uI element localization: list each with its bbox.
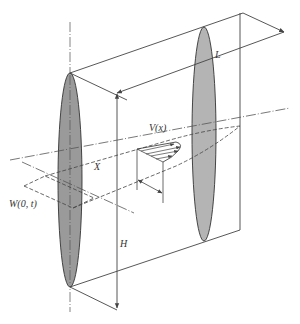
top-edge-back bbox=[70, 13, 243, 73]
label-source: W(0, t) bbox=[9, 199, 37, 209]
x-dimension-line bbox=[138, 180, 162, 193]
label-velocity: V(x) bbox=[149, 123, 166, 133]
top-edge-right bbox=[243, 13, 284, 32]
horizontal-centerline bbox=[10, 108, 290, 160]
velocity-profile bbox=[137, 142, 181, 162]
bottom-edge-front bbox=[70, 287, 117, 310]
diagram-canvas bbox=[0, 0, 300, 324]
label-height: H bbox=[120, 239, 127, 249]
right-ellipse-section bbox=[192, 27, 216, 241]
label-distance: X bbox=[94, 162, 100, 172]
channel-diagram: L V(x) X W(0, t) H bbox=[0, 0, 300, 324]
bottom-edge-back bbox=[70, 230, 240, 287]
label-length: L bbox=[215, 50, 221, 60]
top-edge-front-left bbox=[70, 73, 127, 100]
